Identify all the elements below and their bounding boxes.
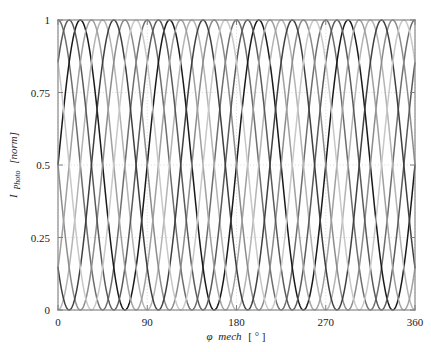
svg-text:φ mech [ ° ]: φ mech [ ° ] [206,330,265,342]
y-tick-label: 0.5 [36,159,50,171]
x-axis-title: φ mech [ ° ] [206,330,265,342]
x-tick-label: 270 [318,316,335,328]
x-tick-label: 180 [228,316,245,328]
y-tick-label: 0.75 [31,87,51,99]
x-axis-unit: [ ° ] [248,330,265,342]
x-tick-label: 360 [407,316,424,328]
y-axis-unit: [norm] [7,132,19,164]
svg-text:I Photo [norm]: I Photo [norm] [7,132,22,199]
line-chart: 090180270360 00.250.50.751 φ mech [ ° ] … [0,0,431,352]
y-axis-symbol: I [7,193,19,199]
x-axis-symbol: φ [206,330,212,342]
x-tick-label: 90 [142,316,154,328]
y-axis-tick-labels: 00.250.50.751 [31,14,51,316]
x-axis-name: mech [218,330,242,342]
x-axis-tick-labels: 090180270360 [55,316,424,328]
y-axis-title: I Photo [norm] [7,132,22,199]
y-axis-subscript: Photo [13,171,22,191]
y-tick-label: 0 [45,304,51,316]
y-tick-label: 1 [45,14,51,26]
figure-canvas: 090180270360 00.250.50.751 φ mech [ ° ] … [0,0,431,352]
x-tick-label: 0 [55,316,61,328]
y-tick-label: 0.25 [31,232,51,244]
